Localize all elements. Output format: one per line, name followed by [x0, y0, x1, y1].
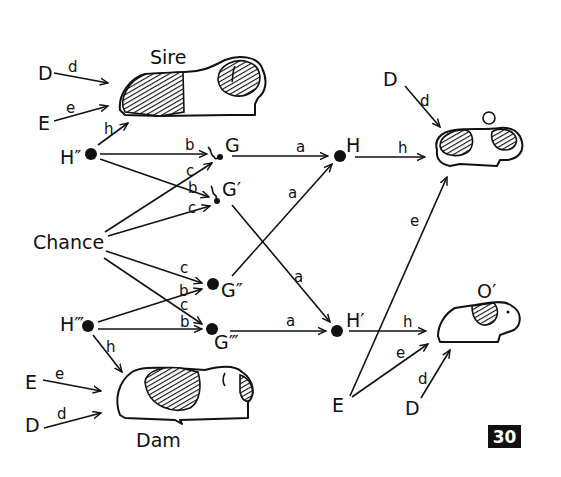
O1-label: O′: [477, 280, 496, 302]
G-squiggle-icon: [208, 147, 218, 159]
offspring-O1-guinea-pig: [438, 302, 520, 342]
coef-b-G: b: [185, 136, 195, 154]
sire-D-label: D: [38, 62, 53, 84]
chance-label: Chance: [33, 231, 104, 253]
dam-guinea-pig: [117, 367, 253, 424]
coef-e-O1: e: [396, 344, 405, 362]
edge-G2-H: [232, 164, 332, 276]
O1-D-label: D: [405, 397, 420, 419]
coef-c-G1: c: [188, 199, 196, 217]
path-diagram: Sire D d E e H″ h b b G G′ Chance c c c …: [0, 0, 561, 477]
coef-e-sire: e: [66, 99, 75, 117]
edge-D-dam: [44, 413, 101, 428]
coef-d-sire: d: [68, 58, 78, 76]
H2-node: [85, 148, 97, 160]
sire-guinea-pig: [120, 57, 266, 116]
edge-E-O: [350, 177, 447, 396]
G1-label: G′: [222, 178, 241, 200]
G2-label: G″: [221, 279, 243, 301]
H-node: [334, 150, 346, 162]
coef-c-G: c: [186, 162, 194, 180]
G-label: G: [225, 134, 240, 156]
O-label-circle: [483, 112, 495, 124]
G-node: [217, 154, 223, 160]
coef-h-O: h: [398, 139, 408, 157]
H-label: H: [346, 134, 360, 156]
sire-label: Sire: [150, 46, 186, 68]
coef-b-G2: b: [179, 282, 189, 300]
G1-node: [214, 198, 220, 204]
sire-E-label: E: [38, 112, 50, 134]
coef-d-O: d: [420, 92, 430, 110]
coef-e-dam: e: [55, 365, 64, 383]
offspring-O-guinea-pig: [436, 128, 522, 166]
H1-node: [331, 325, 343, 337]
coef-h-O1: h: [403, 313, 413, 331]
coef-a-G-H: a: [296, 138, 305, 156]
O-D-label: D: [383, 68, 398, 90]
coef-d-dam: d: [57, 405, 67, 423]
H3-label: H‴: [60, 313, 84, 335]
dam-E-label: E: [25, 371, 37, 393]
coef-b-G3: b: [180, 313, 190, 331]
edge-D-sire: [54, 73, 108, 83]
shared-E-label: E: [332, 394, 344, 416]
dam-label: Dam: [136, 429, 181, 451]
G2-node: [207, 278, 219, 290]
edge-E-dam: [43, 380, 101, 391]
coef-a-G3-H1: a: [286, 312, 295, 330]
G3-label: G‴: [214, 331, 239, 353]
edge-E-sire: [54, 106, 108, 121]
coef-b-G1: b: [188, 179, 198, 197]
H2-label: H″: [60, 146, 81, 168]
coef-e-O: e: [410, 212, 419, 230]
figure-number-badge: 30: [488, 425, 521, 448]
coef-d-O1: d: [418, 370, 428, 388]
H1-label: H′: [346, 309, 365, 331]
coef-a-G2-H: a: [288, 184, 297, 202]
edge-G1-H1: [232, 205, 330, 322]
figure-number: 30: [493, 427, 517, 447]
coef-h-dam: h: [106, 338, 116, 356]
G1-squiggle-icon: [211, 186, 218, 200]
coef-c-G2: c: [180, 259, 188, 277]
coef-h-sire: h: [104, 120, 114, 138]
H3-node: [82, 320, 94, 332]
dam-D-label: D: [25, 414, 40, 436]
edge-E-O1: [352, 344, 428, 397]
coef-a-G1-H1: a: [294, 268, 303, 286]
